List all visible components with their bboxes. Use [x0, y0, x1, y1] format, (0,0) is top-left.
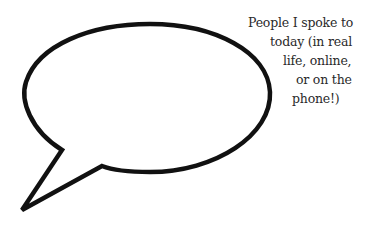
- caption-line-3: life, online,: [283, 53, 351, 68]
- caption-line-1: People I spoke to: [248, 15, 353, 30]
- caption-line-5: phone!): [292, 91, 340, 106]
- caption-text: People I spoke to today (in real life, o…: [0, 0, 382, 227]
- caption-line-4: or on the: [296, 72, 352, 87]
- caption-line-2: today (in real: [270, 34, 352, 49]
